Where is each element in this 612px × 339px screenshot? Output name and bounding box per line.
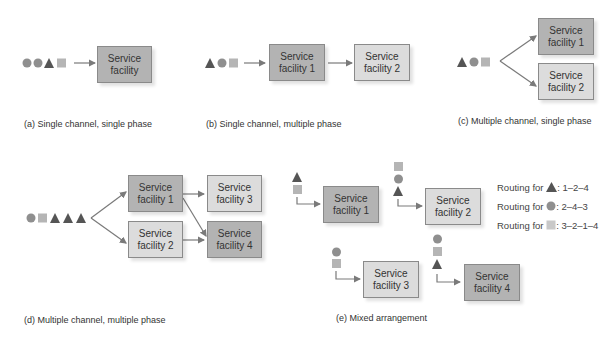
facility-label: Service [373, 268, 409, 280]
service-facility-e2: Servicefacility 2 [425, 188, 481, 225]
service-facility-d2: Servicefacility 2 [128, 221, 183, 258]
service-facility-c2: Servicefacility 2 [538, 63, 594, 100]
service-facility-b1: Servicefacility 1 [269, 44, 325, 81]
triangle-icon [546, 182, 557, 192]
queue-a [22, 57, 72, 69]
square-customer-icon [394, 162, 403, 171]
facility-label: Service [435, 195, 471, 207]
square-customer-icon [293, 185, 302, 194]
facility-label: Service [216, 182, 252, 194]
facility-label: Service [137, 228, 173, 240]
routing-path: : 1–2–4 [557, 182, 589, 193]
facility-label: facility 3 [216, 194, 252, 206]
queue-e4 [432, 234, 443, 271]
service-facility-e4: Servicefacility 4 [464, 264, 520, 301]
facility-label: facility 2 [137, 240, 173, 252]
square-customer-icon [332, 259, 341, 268]
triangle-customer-icon [393, 186, 403, 196]
service-facility-a: Servicefacility [97, 46, 152, 83]
queue-e2 [393, 162, 404, 197]
service-facility-d4: Servicefacility 4 [207, 221, 262, 258]
triangle-customer-icon [457, 57, 467, 67]
queue-e1 [292, 172, 303, 196]
triangle-customer-icon [63, 213, 73, 223]
facility-label: facility [108, 65, 141, 77]
circle-customer-icon [218, 59, 227, 68]
service-facility-e1: Servicefacility 1 [323, 186, 379, 223]
facility-label: facility 4 [474, 283, 510, 295]
triangle-customer-icon [50, 213, 60, 223]
circle-customer-icon [332, 248, 341, 257]
facility-label: Service [279, 51, 315, 63]
queue-b [205, 57, 241, 69]
service-facility-c1: Servicefacility 1 [538, 18, 594, 55]
square-customer-icon [57, 59, 66, 68]
facility-label: facility 1 [137, 194, 173, 206]
routing-legend-square: Routing for : 3–2–1–4 [497, 220, 598, 231]
routing-legend-circle: Routing for : 2–4–3 [497, 201, 588, 212]
facility-label: facility 2 [364, 63, 400, 75]
caption-c: (c) Multiple channel, single phase [458, 116, 592, 126]
facility-label: Service [364, 51, 400, 63]
square-icon [546, 220, 556, 230]
facility-label: Service [216, 228, 252, 240]
square-customer-icon [481, 58, 490, 67]
facility-label: Service [474, 271, 510, 283]
circle-customer-icon [394, 175, 403, 184]
circle-customer-icon [470, 58, 479, 67]
service-facility-d1: Servicefacility 1 [128, 175, 183, 212]
routing-path: : 2–4–3 [556, 201, 588, 212]
facility-label: facility 1 [548, 37, 584, 49]
facility-label: facility 4 [216, 240, 252, 252]
facility-label: facility 2 [435, 207, 471, 219]
caption-a: (a) Single channel, single phase [24, 119, 152, 129]
facility-label: facility 3 [373, 280, 409, 292]
queue-d [26, 212, 88, 224]
square-customer-icon [433, 247, 442, 256]
triangle-customer-icon [205, 58, 215, 68]
square-customer-icon [38, 214, 47, 223]
caption-d: (d) Multiple channel, multiple phase [24, 315, 166, 325]
circle-customer-icon [23, 59, 32, 68]
facility-label: facility 1 [333, 205, 369, 217]
facility-label: Service [333, 193, 369, 205]
service-facility-d3: Servicefacility 3 [207, 175, 262, 212]
routing-prefix: Routing for [497, 201, 543, 212]
facility-label: facility 1 [279, 63, 315, 75]
caption-b: (b) Single channel, multiple phase [206, 119, 342, 129]
triangle-customer-icon [432, 259, 442, 269]
queue-e3 [331, 247, 342, 269]
queue-c [457, 56, 493, 68]
circle-customer-icon [34, 59, 43, 68]
triangle-customer-icon [76, 213, 86, 223]
caption-e: (e) Mixed arrangement [336, 313, 427, 323]
triangle-customer-icon [44, 58, 54, 68]
routing-prefix: Routing for [497, 220, 543, 231]
routing-path: : 3–2–1–4 [556, 220, 598, 231]
service-facility-e3: Servicefacility 3 [363, 261, 419, 298]
service-facility-b2: Servicefacility 2 [354, 44, 410, 81]
facility-label: Service [548, 70, 584, 82]
facility-label: Service [137, 182, 173, 194]
circle-customer-icon [433, 235, 442, 244]
square-customer-icon [229, 59, 238, 68]
facility-label: Service [108, 53, 141, 65]
routing-legend-triangle: Routing for : 1–2–4 [497, 182, 589, 193]
circle-icon [546, 201, 556, 211]
routing-prefix: Routing for [497, 182, 543, 193]
triangle-customer-icon [292, 172, 302, 182]
circle-customer-icon [27, 214, 36, 223]
facility-label: facility 2 [548, 82, 584, 94]
facility-label: Service [548, 25, 584, 37]
